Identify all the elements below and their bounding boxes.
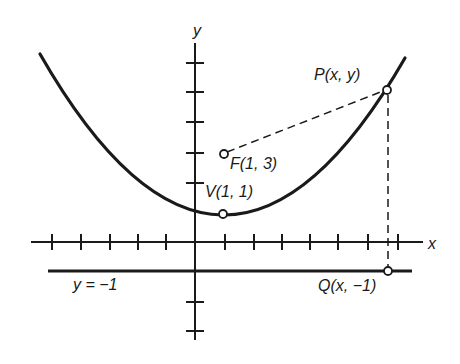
y-axis-label: y [192,22,202,39]
p-point [383,86,391,94]
vertex-label: V(1, 1) [205,183,253,200]
x-axis-label: x [427,235,437,252]
directrix-label: y = −1 [72,276,117,293]
y-axis [186,43,204,340]
focus-to-point-dashed-line [227,91,383,152]
point-p-label: P(x, y) [314,66,360,83]
point-q-label: Q(x, −1) [318,277,376,294]
parabola-diagram: x y y = −1 F(1, 3) V(1, 1) P(x, y) Q(x, … [0,0,460,364]
x-axis [31,234,423,250]
q-point [384,267,392,275]
focus-point [220,150,228,158]
vertex-point [219,210,227,218]
focus-label: F(1, 3) [230,155,277,172]
